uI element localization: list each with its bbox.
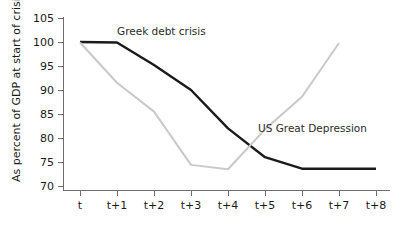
y-tick-label: 70 bbox=[40, 180, 54, 193]
annotation-group: Greek debt crisisUS Great Depression bbox=[117, 25, 367, 134]
series-group bbox=[80, 42, 376, 169]
x-tick-label: t+2 bbox=[144, 199, 165, 212]
x-tick-label: t+5 bbox=[255, 199, 276, 212]
y-tick-label: 75 bbox=[40, 156, 54, 169]
chart-container: As percent of GDP at start of crisis 707… bbox=[0, 0, 404, 226]
series-line-us-great-depression bbox=[80, 42, 339, 169]
series-annotation-label: US Great Depression bbox=[258, 122, 367, 134]
series-annotation-label: Greek debt crisis bbox=[117, 25, 206, 37]
line-chart: As percent of GDP at start of crisis 707… bbox=[0, 0, 404, 226]
x-tick-label: t+1 bbox=[107, 199, 128, 212]
y-axis-ticks: 707580859095100105 bbox=[33, 12, 64, 193]
y-tick-label: 80 bbox=[40, 132, 54, 145]
y-tick-label: 85 bbox=[40, 108, 54, 121]
y-tick-label: 95 bbox=[40, 60, 54, 73]
x-axis-ticks: tt+1t+2t+3t+4t+5t+6t+7t+8 bbox=[78, 191, 386, 213]
y-tick-label: 90 bbox=[40, 84, 54, 97]
x-tick-label: t+8 bbox=[366, 199, 387, 212]
y-tick-label: 105 bbox=[33, 12, 54, 25]
x-tick-label: t bbox=[78, 199, 83, 212]
y-axis-title: As percent of GDP at start of crisis bbox=[10, 0, 23, 182]
x-tick-label: t+7 bbox=[329, 199, 350, 212]
y-tick-label: 100 bbox=[33, 36, 54, 49]
series-line-greek-debt-crisis bbox=[80, 42, 376, 169]
x-tick-label: t+3 bbox=[181, 199, 202, 212]
x-tick-label: t+4 bbox=[218, 199, 239, 212]
x-tick-label: t+6 bbox=[292, 199, 313, 212]
